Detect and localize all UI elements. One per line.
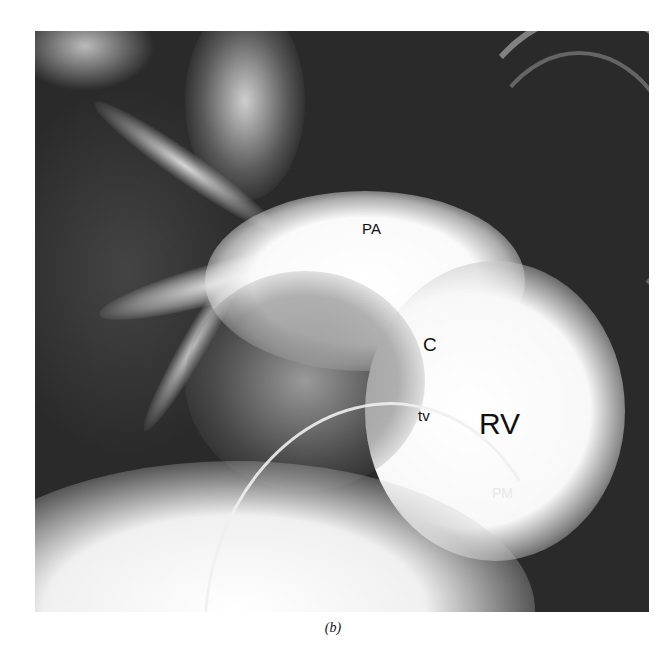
top-left-glow <box>35 31 155 91</box>
label-tv: tv <box>418 407 430 424</box>
label-pa: PA <box>362 220 381 237</box>
angiogram-image: PA C tv RV PM <box>35 31 649 612</box>
figure-caption: (b) <box>0 620 666 636</box>
label-rv: RV <box>479 407 520 441</box>
label-pm: PM <box>492 485 513 501</box>
label-c: C <box>423 334 437 356</box>
